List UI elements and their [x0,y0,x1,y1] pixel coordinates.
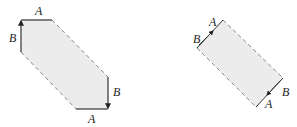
label-b-bottom-right: B [282,85,290,99]
diagram-canvas: A B B A A B B A [0,0,297,127]
label-a-bottom: A [87,112,96,126]
right-shape: A B B A [193,15,290,111]
right-shape-fill [197,20,283,107]
label-a-bottom-right: A [264,97,273,111]
label-a-top-right: A [208,15,217,29]
label-b-top-right: B [193,32,201,46]
left-shape-fill [21,20,108,109]
label-a-top: A [34,4,43,18]
label-b-left: B [9,31,17,45]
label-b-right: B [113,85,121,99]
left-shape: A B B A [9,4,121,126]
